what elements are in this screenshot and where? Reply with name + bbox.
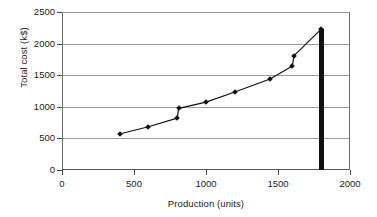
gridline-y: [63, 107, 349, 108]
x-tick-label: 1000: [184, 178, 228, 189]
x-tick: [134, 170, 135, 175]
y-tick-label: 500: [13, 132, 55, 143]
chart-container: Total cost (k$) Production (units) 05001…: [0, 0, 377, 217]
x-tick: [278, 170, 279, 175]
x-tick: [350, 170, 351, 175]
x-tick: [206, 170, 207, 175]
y-tick-label: 1000: [13, 101, 55, 112]
x-tick-label: 1500: [256, 178, 300, 189]
y-tick: [57, 12, 62, 13]
gridline-y: [63, 138, 349, 139]
y-tick: [57, 44, 62, 45]
x-tick-label: 2000: [328, 178, 372, 189]
x-axis-title: Production (units): [62, 198, 350, 209]
x-tick-label: 0: [40, 178, 84, 189]
capacity-limit-bar: [319, 29, 324, 170]
x-tick: [62, 170, 63, 175]
plot-area: [62, 12, 350, 170]
y-tick-label: 0: [13, 164, 55, 175]
gridline-y: [63, 75, 349, 76]
y-tick: [57, 138, 62, 139]
gridline-y: [63, 44, 349, 45]
y-tick-label: 1500: [13, 69, 55, 80]
y-tick: [57, 75, 62, 76]
x-tick-label: 500: [112, 178, 156, 189]
y-tick: [57, 107, 62, 108]
y-tick-label: 2000: [13, 38, 55, 49]
y-tick-label: 2500: [13, 6, 55, 17]
